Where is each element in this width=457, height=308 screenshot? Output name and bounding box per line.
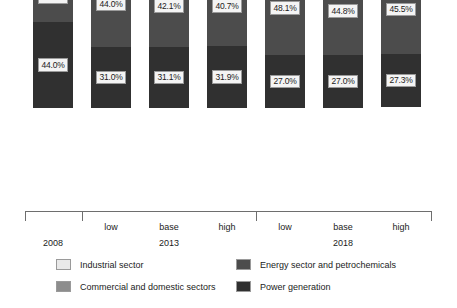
group-label-2008: 2008 <box>43 238 63 248</box>
tick-label-2013-high: high <box>218 222 235 232</box>
segment-value-label: 27.0% <box>328 75 357 89</box>
tick-label-2013-low: low <box>104 222 118 232</box>
bar-segment[interactable]: 48.1% <box>265 0 305 55</box>
legend-swatch-industrial-sector <box>56 259 71 270</box>
legend-swatch-power-generation <box>236 281 251 292</box>
bar-segment[interactable]: 24.8% <box>33 0 73 22</box>
legend-label-power-generation: Power generation <box>260 282 331 292</box>
bar-segment[interactable]: 27.0% <box>265 55 305 108</box>
stacked-bar-chart: 11.7%19.5%24.8%44.0%8.8%16.2%44.0%31.0%1… <box>0 0 457 308</box>
bar-segment[interactable]: 42.1% <box>149 0 189 47</box>
bar-segment[interactable]: 27.3% <box>381 54 421 108</box>
segment-value-label: 44.8% <box>328 4 357 18</box>
bar-segment[interactable]: 40.7% <box>207 0 247 46</box>
bar-segment[interactable]: 44.0% <box>33 22 73 108</box>
bar-2[interactable]: 8.8%16.2%44.0%31.0% <box>91 0 131 108</box>
tick-label-2018-base: base <box>333 222 353 232</box>
segment-value-label: 45.5% <box>386 3 415 17</box>
legend: Industrial sector Energy sector and petr… <box>0 256 457 308</box>
segment-value-label: 31.9% <box>212 70 241 84</box>
bar-6[interactable]: 11.4%16.8%44.8%27.0% <box>323 0 363 108</box>
tick-label-2013-base: base <box>159 222 179 232</box>
bar-segment[interactable]: 31.9% <box>207 46 247 109</box>
plot-area: 11.7%19.5%24.8%44.0%8.8%16.2%44.0%31.0%1… <box>0 0 457 212</box>
segment-value-label: 40.7% <box>212 0 241 13</box>
legend-label-energy-sector-and-petrochemicals: Energy sector and petrochemicals <box>260 260 396 270</box>
segment-value-label: 27.3% <box>386 74 415 88</box>
segment-value-label: 27.0% <box>270 75 299 89</box>
group-label-2013: 2013 <box>159 238 179 248</box>
legend-label-industrial-sector: Industrial sector <box>80 260 144 270</box>
bar-7[interactable]: 11.4%15.5%45.5%27.3% <box>381 0 421 108</box>
bar-segment[interactable]: 44.0% <box>91 0 131 47</box>
legend-label-commercial-and-domestic-sectors: Commercial and domestic sectors <box>80 282 216 292</box>
legend-item-industrial-sector[interactable]: Industrial sector <box>56 259 144 270</box>
tick-label-2018-high: high <box>392 222 409 232</box>
bar-1[interactable]: 11.7%19.5%24.8%44.0% <box>33 0 73 108</box>
segment-value-label: 31.1% <box>154 71 183 85</box>
segment-value-label: 48.1% <box>270 1 299 15</box>
segment-value-label: 24.8% <box>38 0 67 4</box>
bar-4[interactable]: 10.8%16.7%40.7%31.9% <box>207 0 247 108</box>
segment-value-label: 44.0% <box>38 58 67 72</box>
bar-segment[interactable]: 31.0% <box>91 47 131 108</box>
segment-value-label: 31.0% <box>96 71 125 85</box>
segment-value-label: 42.1% <box>154 0 183 13</box>
legend-item-energy-sector-and-petrochemicals[interactable]: Energy sector and petrochemicals <box>236 259 396 270</box>
legend-swatch-energy-sector-and-petrochemicals <box>236 259 251 270</box>
tick-label-2018-low: low <box>278 222 292 232</box>
bar-segment[interactable]: 45.5% <box>381 0 421 54</box>
bar-segment[interactable]: 31.1% <box>149 47 189 108</box>
bar-5[interactable]: 8.3%16.6%48.1%27.0% <box>265 0 305 108</box>
bar-segment[interactable]: 27.0% <box>323 55 363 108</box>
legend-item-power-generation[interactable]: Power generation <box>236 281 331 292</box>
legend-item-commercial-and-domestic-sectors[interactable]: Commercial and domestic sectors <box>56 281 216 292</box>
segment-value-label: 44.0% <box>96 0 125 11</box>
bar-segment[interactable]: 44.8% <box>323 0 363 55</box>
group-label-2018: 2018 <box>333 238 353 248</box>
legend-swatch-commercial-and-domestic-sectors <box>56 281 71 292</box>
bar-3[interactable]: 10.3%16.5%42.1%31.1% <box>149 0 189 108</box>
